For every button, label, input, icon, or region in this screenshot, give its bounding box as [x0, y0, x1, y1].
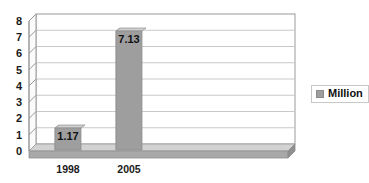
bar-label-1998: 1.17	[50, 131, 86, 142]
floor-front	[29, 151, 288, 158]
legend-swatch-million	[316, 90, 324, 98]
chart-legend: Million	[311, 85, 369, 103]
y-tick-label-8: 8	[8, 16, 22, 27]
y-tick-label-3: 3	[8, 97, 22, 108]
y-tick-label-7: 7	[8, 32, 22, 43]
bar-2005	[116, 28, 146, 150]
bar-label-2005: 7.13	[111, 34, 147, 45]
x-tick-label-1998: 1998	[46, 164, 90, 175]
y-tick-label-6: 6	[8, 48, 22, 59]
y-tick-label-4: 4	[8, 81, 22, 92]
y-tick-label-5: 5	[8, 65, 22, 76]
bar-chart: 8 7 6 5 4 3 2 1 0 1.17 7.13 1998 2005 Mi…	[0, 0, 369, 183]
y-tick-label-2: 2	[8, 113, 22, 124]
x-tick-label-2005: 2005	[107, 164, 151, 175]
legend-label-million: Million	[328, 88, 363, 99]
y-tick-label-1: 1	[8, 130, 22, 141]
y-tick-label-0: 0	[8, 146, 22, 157]
